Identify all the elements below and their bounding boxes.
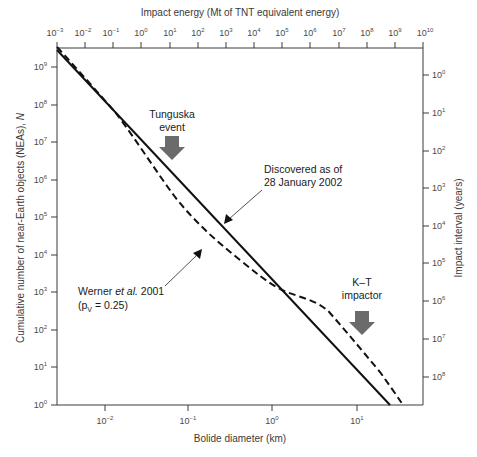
kt-down-arrow-icon (349, 311, 375, 335)
kt-label: K–T (352, 276, 372, 288)
tunguska-down-arrow-icon (159, 136, 185, 160)
werner-label: Werner et al. 2001 (78, 285, 164, 297)
svg-text:10−1: 10−1 (103, 27, 121, 38)
svg-text:107: 107 (332, 27, 346, 38)
svg-text:106: 106 (303, 27, 317, 38)
svg-text:101: 101 (163, 27, 177, 38)
discovered-label-2: 28 January 2002 (264, 176, 342, 188)
svg-text:1010: 1010 (417, 27, 434, 38)
bottom-axis (105, 405, 357, 411)
svg-text:108: 108 (34, 99, 48, 110)
kt-label-2: impactor (342, 289, 383, 301)
svg-text:104: 104 (432, 220, 446, 231)
svg-text:100: 100 (265, 415, 279, 426)
svg-text:100: 100 (432, 69, 446, 80)
top-axis (57, 42, 423, 48)
right-axis (423, 75, 429, 377)
plot-frame (57, 48, 423, 405)
solid-curve-discovered (57, 50, 390, 405)
svg-text:109: 109 (388, 27, 402, 38)
chart: Impact energy (Mt of TNT equivalent ener… (0, 0, 477, 457)
right-axis-tick-labels: 100 101 102 103 104 105 106 107 108 (432, 69, 446, 382)
svg-text:10−2: 10−2 (97, 415, 115, 426)
werner-pointer (165, 254, 198, 286)
right-axis-title: Impact interval (years) (453, 179, 464, 278)
svg-text:102: 102 (34, 324, 48, 335)
bottom-axis-title: Bolide diameter (km) (194, 433, 286, 444)
svg-text:109: 109 (34, 61, 48, 72)
svg-text:103: 103 (219, 27, 233, 38)
svg-text:104: 104 (247, 27, 261, 38)
svg-text:105: 105 (34, 211, 48, 222)
svg-text:101: 101 (432, 107, 446, 118)
left-axis-title: Cumulative number of near-Earth objects … (15, 112, 26, 343)
discovered-pointer (229, 190, 262, 219)
svg-text:103: 103 (432, 182, 446, 193)
left-axis (51, 67, 57, 405)
svg-text:10−3: 10−3 (47, 27, 65, 38)
svg-text:103: 103 (34, 286, 48, 297)
svg-text:106: 106 (432, 295, 446, 306)
top-axis-title: Impact energy (Mt of TNT equivalent ener… (141, 7, 340, 18)
dashed-curve-werner (57, 47, 403, 405)
left-axis-tick-labels: 109 108 107 106 105 104 103 102 101 100 (34, 61, 48, 410)
svg-text:108: 108 (432, 371, 446, 382)
werner-param: (pV = 0.25) (78, 299, 128, 313)
svg-text:102: 102 (191, 27, 205, 38)
top-axis-tick-labels: 10−3 10−2 10−1 100 101 102 103 104 105 1… (47, 27, 434, 38)
tunguska-label-2: event (159, 121, 185, 133)
tunguska-label: Tunguska (149, 108, 195, 120)
svg-text:101: 101 (350, 415, 364, 426)
svg-text:100: 100 (34, 399, 48, 410)
svg-text:108: 108 (360, 27, 374, 38)
discovered-label: Discovered as of (264, 163, 342, 175)
svg-text:107: 107 (432, 333, 446, 344)
bottom-axis-tick-labels: 10−2 10−1 100 101 (97, 415, 365, 426)
svg-text:10−1: 10−1 (180, 415, 198, 426)
svg-text:105: 105 (432, 257, 446, 268)
svg-text:10−2: 10−2 (75, 27, 93, 38)
svg-text:106: 106 (34, 174, 48, 185)
svg-text:104: 104 (34, 249, 48, 260)
svg-text:100: 100 (134, 27, 148, 38)
svg-text:105: 105 (275, 27, 289, 38)
svg-text:107: 107 (34, 136, 48, 147)
svg-text:101: 101 (34, 361, 48, 372)
discovered-arrowhead-icon (224, 214, 233, 224)
svg-text:102: 102 (432, 145, 446, 156)
